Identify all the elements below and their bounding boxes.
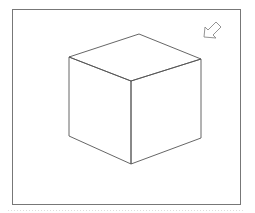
cube: [69, 34, 201, 164]
cube-top-face: [69, 34, 201, 81]
arrow-down-left-icon: [204, 22, 221, 38]
diagram-frame: [13, 10, 241, 205]
cube-diagram: [0, 0, 255, 213]
cube-left-face: [69, 57, 131, 164]
cube-right-face: [131, 59, 201, 164]
